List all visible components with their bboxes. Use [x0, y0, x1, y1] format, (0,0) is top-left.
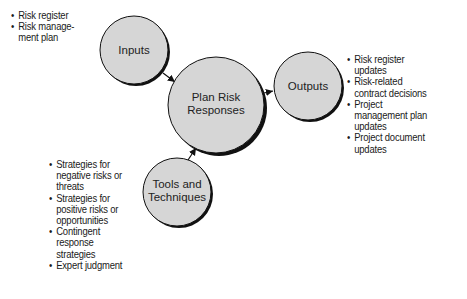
node-process-label-2: Responses	[187, 104, 245, 116]
inputs-list-item: Risk manage- ment plan	[11, 21, 83, 43]
tools-list: Strategies for negative risks or threats…	[49, 159, 134, 271]
node-process-label-1: Plan Risk	[192, 91, 241, 103]
node-plan-risk-responses: Plan Risk Responses	[168, 57, 267, 156]
node-outputs: Outputs	[274, 52, 344, 122]
arrow-inputs-to-process	[163, 73, 175, 82]
node-outputs-label: Outputs	[288, 80, 329, 92]
outputs-list-item: Project management plan updates	[347, 99, 437, 133]
outputs-list-item: Risk register updates	[347, 54, 437, 76]
outputs-list-item: Project document updates	[347, 132, 437, 154]
node-inputs-label: Inputs	[118, 44, 150, 56]
outputs-list-item: Risk-related contract decisions	[347, 76, 437, 98]
inputs-list: Risk register Risk manage- ment plan	[11, 10, 83, 44]
tools-list-item: Contingent response strategies	[49, 226, 134, 260]
arrow-tools-to-process	[188, 148, 196, 160]
arrow-process-to-outputs	[264, 91, 273, 93]
node-tools-label-1: Tools and	[152, 178, 201, 190]
node-inputs: Inputs	[100, 16, 170, 86]
tools-list-item: Expert judgment	[49, 260, 134, 271]
tools-list-item: Strategies for negative risks or threats	[49, 159, 134, 193]
tools-list-item: Strategies for positive risks or opportu…	[49, 193, 134, 227]
node-tools-techniques: Tools and Techniques	[143, 158, 213, 228]
outputs-list: Risk register updates Risk-related contr…	[347, 54, 437, 155]
node-tools-label-2: Techniques	[148, 191, 206, 203]
